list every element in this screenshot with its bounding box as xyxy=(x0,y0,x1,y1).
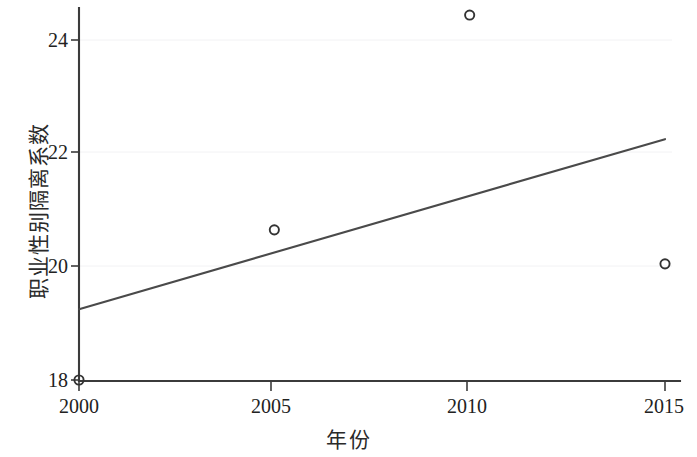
y-tick-marks xyxy=(71,40,79,380)
data-point-2015 xyxy=(660,259,669,268)
trend-line xyxy=(79,139,665,309)
axes-lines xyxy=(79,8,680,381)
x-tick-marks xyxy=(79,381,665,391)
data-point-2010 xyxy=(465,10,474,19)
trend-line-group xyxy=(79,139,665,309)
data-point-markers xyxy=(74,10,669,384)
scatter-chart: 职业性别隔离系数 年份 24 22 20 18 2000 2005 2010 2… xyxy=(0,0,697,457)
gridlines xyxy=(79,40,672,266)
plot-area xyxy=(0,0,697,457)
data-point-2005 xyxy=(270,225,279,234)
